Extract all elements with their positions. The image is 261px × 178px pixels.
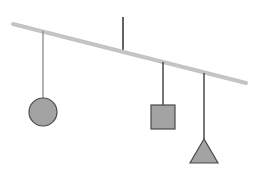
balance-beam <box>13 24 246 83</box>
mobile-canvas <box>0 0 261 178</box>
square-weight <box>151 105 175 129</box>
circle-weight <box>29 98 57 126</box>
balance-mobile-diagram <box>0 0 261 178</box>
triangle-weight <box>190 139 218 163</box>
